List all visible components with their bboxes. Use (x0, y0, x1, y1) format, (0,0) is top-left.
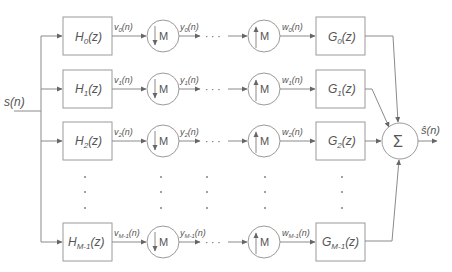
analysis-filter-label: H0(z) (75, 30, 102, 46)
output-label: ŝ(n) (421, 124, 440, 136)
v-signal-label: v1(n) (114, 75, 133, 86)
analysis-filter-label: H2(z) (75, 134, 102, 150)
branch-1: H1(z) v1(n) M y1(n) · · · M w1(n) G1(z) (41, 70, 389, 127)
filter-bank-diagram: s(n) H0(z) v0(n) M y0(n) · · · M w0(n) G… (0, 0, 452, 272)
w-signal-label: w0(n) (282, 22, 303, 33)
expander-label: M (260, 236, 269, 248)
expander-label: M (260, 135, 269, 147)
w-signal-label: w2(n) (282, 127, 303, 138)
decimator-label: M (159, 135, 168, 147)
v-signal-label: v0(n) (114, 22, 133, 33)
y-signal-label: y0(n) (179, 22, 199, 33)
ellipsis: · · · (205, 237, 221, 248)
w-signal-label: wM-1(n) (282, 228, 310, 239)
summation-node: Σ ŝ(n) (382, 123, 440, 159)
analysis-filter-label: H1(z) (75, 82, 102, 98)
input-signal: s(n) (4, 36, 41, 242)
synthesis-filter-label: G0(z) (328, 30, 356, 46)
svg-text:s(n): s(n) (4, 95, 25, 109)
synthesis-filter-label: G1(z) (328, 82, 356, 98)
sigma-icon: Σ (393, 133, 403, 150)
branch-M-1: HM-1(z) vM-1(n) M yM-1(n) · · · M wM-1(n… (41, 160, 399, 261)
synthesis-filter-box (316, 17, 365, 55)
w-signal-label: w1(n) (282, 75, 303, 86)
v-signal-label: vM-1(n) (114, 228, 140, 239)
v-signal-label: v2(n) (114, 127, 133, 138)
ellipsis: · · · (205, 31, 221, 42)
synthesis-filter-label: G2(z) (328, 134, 356, 150)
decimator-label: M (159, 236, 168, 248)
decimator-label: M (159, 30, 168, 42)
y-signal-label: yM-1(n) (179, 228, 206, 239)
decimator-label: M (159, 83, 168, 95)
ellipsis: · · · (205, 84, 221, 95)
branch-2: H2(z) v2(n) M y2(n) · · · M w2(n) G2(z) (41, 122, 381, 160)
y-signal-label: y2(n) (179, 127, 199, 138)
expander-label: M (260, 30, 269, 42)
vertical-ellipsis (84, 176, 343, 209)
y-signal-label: y1(n) (179, 75, 199, 86)
expander-label: M (260, 83, 269, 95)
ellipsis: · · · (205, 136, 221, 147)
